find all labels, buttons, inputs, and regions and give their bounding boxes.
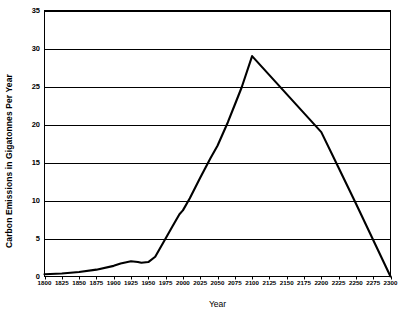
x-tick-label: 2150 xyxy=(280,280,294,286)
x-tick-label: 2050 xyxy=(211,280,225,286)
x-tick-label: 2125 xyxy=(263,280,277,286)
x-tick-label: 1825 xyxy=(55,280,69,286)
gridlines xyxy=(45,12,391,240)
y-tick-label: 5 xyxy=(20,235,40,243)
x-tick-label: 1950 xyxy=(141,280,155,286)
y-tick-label: 20 xyxy=(20,121,40,129)
x-tick-label: 2275 xyxy=(366,280,380,286)
y-tick-label: 35 xyxy=(20,7,40,15)
x-tick-label: 1975 xyxy=(159,280,173,286)
x-tick-label: 2250 xyxy=(349,280,363,286)
x-tick-label: 2075 xyxy=(228,280,242,286)
y-tick-label: 15 xyxy=(20,159,40,167)
x-tick-label: 1800 xyxy=(38,280,52,286)
x-tick-label: 1875 xyxy=(90,280,104,286)
x-tick-label: 1900 xyxy=(107,280,121,286)
y-tick-label: 10 xyxy=(20,197,40,205)
x-axis-title: Year xyxy=(44,299,391,309)
y-axis-tick-labels: 05101520253035 xyxy=(20,0,40,322)
x-tick-label: 1925 xyxy=(124,280,138,286)
carbon-emissions-line-chart: Carbon Emissions in Gigatonnes Per Year … xyxy=(0,0,407,322)
y-tick-label: 25 xyxy=(20,83,40,91)
x-tick-label: 2025 xyxy=(193,280,207,286)
x-tick-label: 2100 xyxy=(245,280,259,286)
x-tick-label: 2200 xyxy=(314,280,328,286)
x-tick-label: 2300 xyxy=(384,280,398,286)
data-series-line xyxy=(45,56,391,276)
plot-area xyxy=(0,0,407,322)
x-tick-label: 2000 xyxy=(176,280,190,286)
x-tick-label: 2225 xyxy=(332,280,346,286)
x-tick-label: 1850 xyxy=(72,280,86,286)
y-axis-title: Carbon Emissions in Gigatonnes Per Year xyxy=(0,0,18,322)
x-tick-label: 2175 xyxy=(297,280,311,286)
y-tick-label: 30 xyxy=(20,45,40,53)
